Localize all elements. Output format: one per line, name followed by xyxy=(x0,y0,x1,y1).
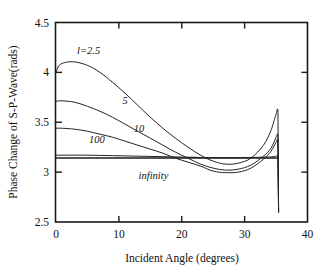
x-tick-labels: 010203040 xyxy=(53,228,313,240)
curve-label: 5 xyxy=(123,95,128,106)
x-tick-label: 10 xyxy=(113,228,125,240)
x-tick-label: 30 xyxy=(239,228,251,240)
figure-container: Phase Change of S-P-Wave(rads) Incident … xyxy=(0,0,328,278)
y-tick-labels: 2.533.544.5 xyxy=(35,17,50,229)
x-tick-label: 20 xyxy=(176,228,188,240)
curve-annotations: l=2.5510100infinity xyxy=(77,45,169,181)
phase-change-line-chart: Phase Change of S-P-Wave(rads) Incident … xyxy=(0,0,328,278)
y-tick-label: 4 xyxy=(43,66,49,78)
curve-label: l=2.5 xyxy=(77,45,100,56)
y-tick-label: 3 xyxy=(43,166,49,178)
x-tick-label: 40 xyxy=(302,228,314,240)
y-axis-title: Phase Change of S-P-Wave(rads) xyxy=(7,45,20,198)
y-tick-label: 2.5 xyxy=(35,216,50,228)
curve-label: 10 xyxy=(134,123,145,134)
x-tick-label: 0 xyxy=(53,228,59,240)
x-axis-title: Incident Angle (degrees) xyxy=(125,252,239,265)
curve-label: infinity xyxy=(139,170,169,181)
curve-100 xyxy=(56,155,279,212)
curve-label: 100 xyxy=(89,134,106,145)
y-tick-label: 4.5 xyxy=(35,17,50,29)
y-tick-label: 3.5 xyxy=(35,116,50,128)
